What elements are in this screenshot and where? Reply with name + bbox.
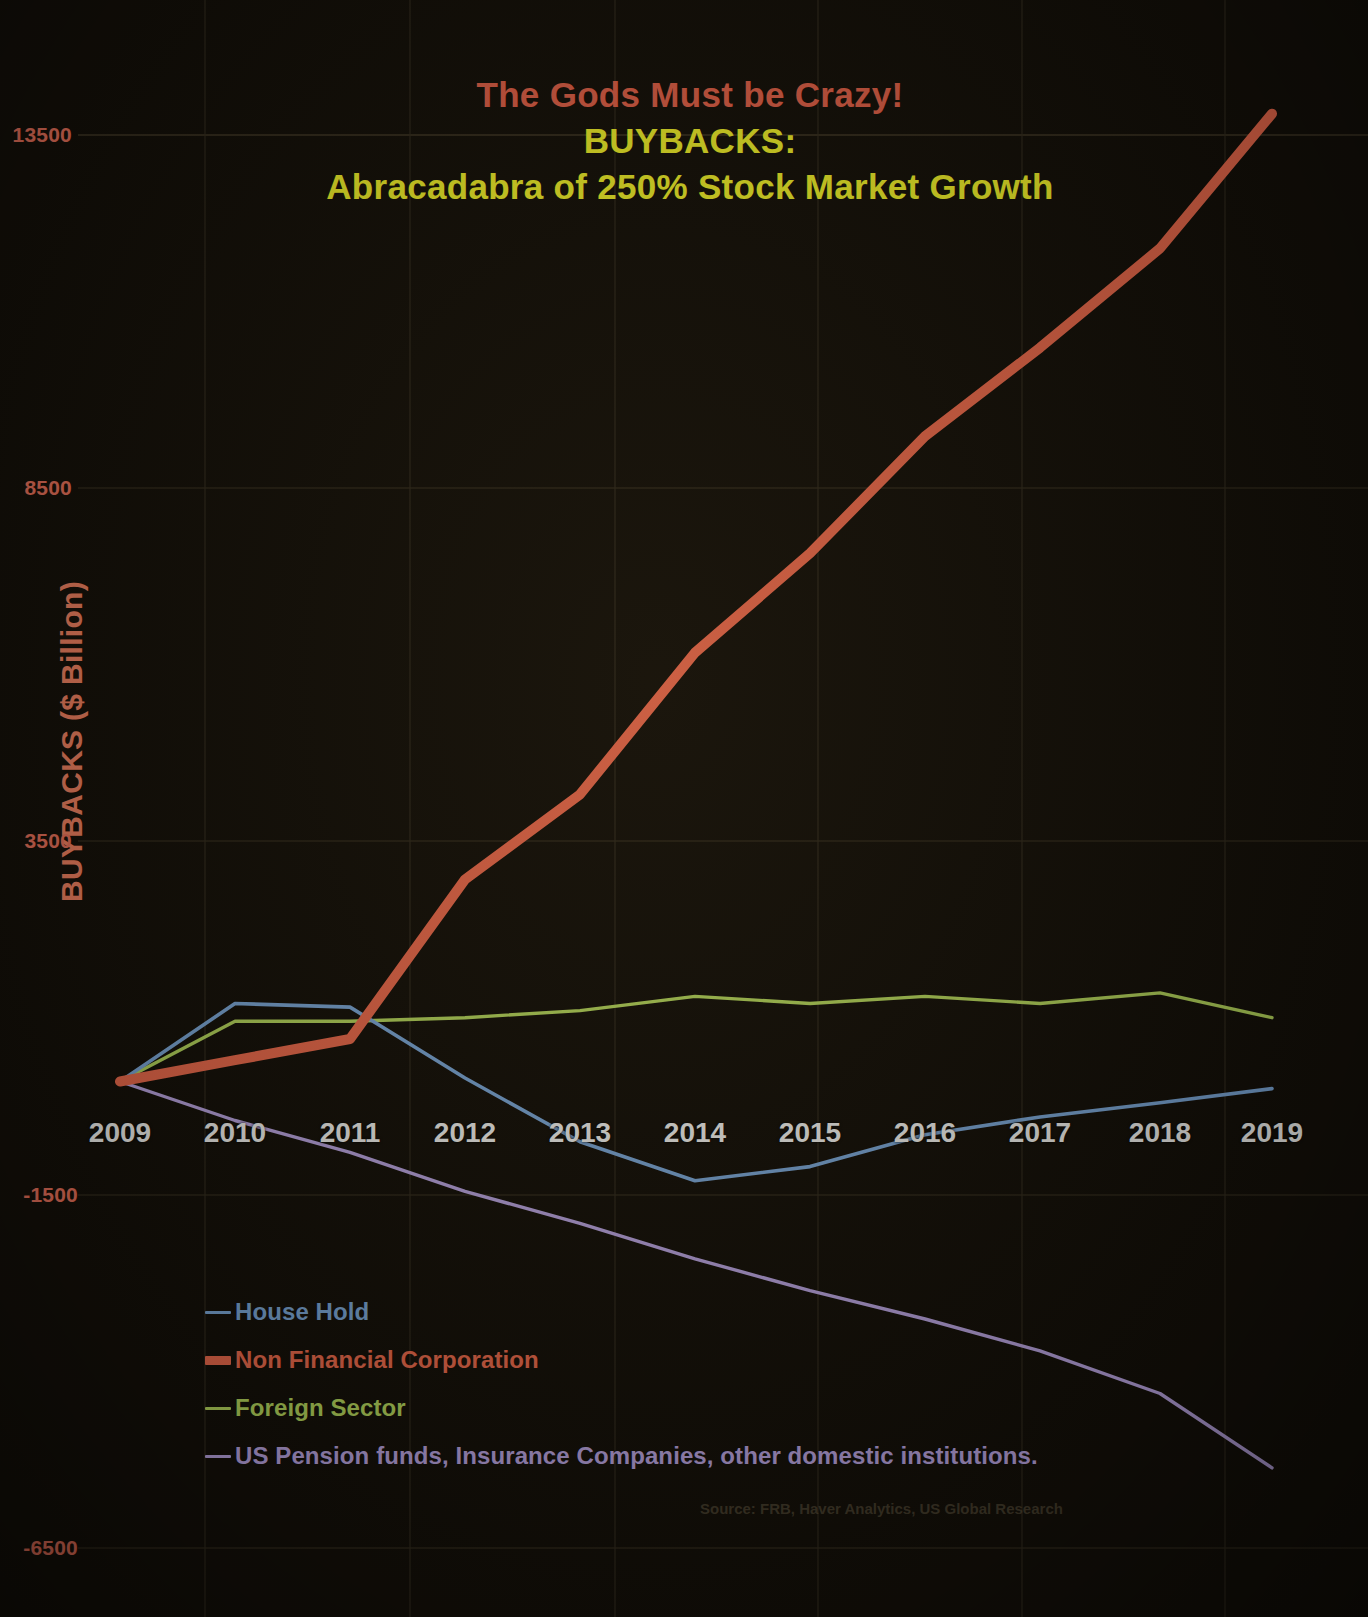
x-tick-2017: 2017 [1009, 1117, 1071, 1149]
title-line-3: Abracadabra of 250% Stock Market Growth [150, 164, 1230, 211]
y-tick-13500: 13500 [0, 123, 72, 147]
title-line-2: BUYBACKS: [150, 118, 1230, 164]
source-attribution: Source: FRB, Haver Analytics, US Global … [700, 1500, 1063, 1517]
y-tick-8500: 8500 [0, 476, 72, 500]
series-line-non-financial-corporation [120, 114, 1272, 1082]
x-tick-2010: 2010 [204, 1117, 266, 1149]
legend-swatch-non-financial-corporation [205, 1356, 231, 1365]
y-axis-title: BUYBACKS ($ Billion) [55, 602, 89, 902]
legend-label-foreign-sector: Foreign Sector [235, 1394, 406, 1422]
legend-label-non-financial-corporation: Non Financial Corporation [235, 1346, 539, 1374]
chart-title-block: The Gods Must be Crazy! BUYBACKS: Abraca… [150, 72, 1230, 211]
legend-item-non-financial-corporation[interactable]: Non Financial Corporation [205, 1336, 1038, 1384]
x-tick-2016: 2016 [894, 1117, 956, 1149]
legend-label-house-hold: House Hold [235, 1298, 369, 1326]
title-line-1: The Gods Must be Crazy! [150, 72, 1230, 118]
x-tick-2012: 2012 [434, 1117, 496, 1149]
chart-legend: House Hold Non Financial Corporation For… [205, 1288, 1038, 1480]
legend-swatch-us-pension-funds [205, 1455, 231, 1458]
legend-swatch-house-hold [205, 1311, 231, 1314]
y-tick-3500: 3500 [0, 829, 72, 853]
legend-label-us-pension-funds: US Pension funds, Insurance Companies, o… [235, 1442, 1038, 1470]
x-tick-2014: 2014 [664, 1117, 726, 1149]
legend-item-foreign-sector[interactable]: Foreign Sector [205, 1384, 1038, 1432]
legend-item-house-hold[interactable]: House Hold [205, 1288, 1038, 1336]
x-tick-2015: 2015 [779, 1117, 841, 1149]
legend-item-us-pension-funds[interactable]: US Pension funds, Insurance Companies, o… [205, 1432, 1038, 1480]
series-line-house-hold [120, 1004, 1272, 1181]
x-tick-2018: 2018 [1129, 1117, 1191, 1149]
y-tick-neg6500: -6500 [0, 1536, 78, 1560]
data-series-layer [120, 114, 1272, 1468]
x-tick-2019: 2019 [1241, 1117, 1303, 1149]
y-tick-neg1500: -1500 [0, 1183, 78, 1207]
x-tick-2013: 2013 [549, 1117, 611, 1149]
x-tick-2009: 2009 [89, 1117, 151, 1149]
legend-swatch-foreign-sector [205, 1407, 231, 1410]
x-tick-2011: 2011 [320, 1117, 381, 1149]
